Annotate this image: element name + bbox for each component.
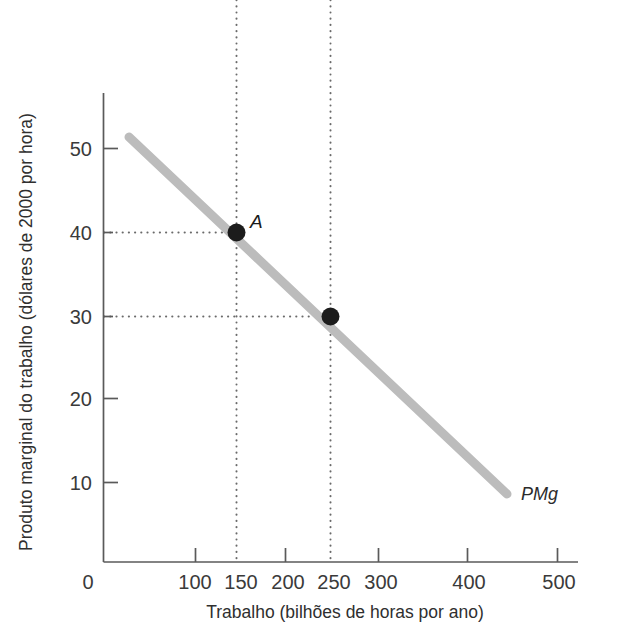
y-axis-title: Produto marginal do trabalho (dólares de… (16, 113, 36, 551)
data-point-a (228, 224, 246, 242)
pmg-curve-label: PMg (521, 484, 558, 504)
x-tick-label-500: 500 (542, 571, 575, 593)
y-tick-label-50: 50 (70, 138, 92, 160)
y-tick-label-20: 20 (70, 388, 92, 410)
marginal-product-line-chart: 50 40 30 20 10 0 100 150 200 250 300 400… (0, 0, 624, 644)
x-tick-label-100: 100 (178, 571, 211, 593)
x-tick-label-250: 250 (317, 571, 350, 593)
data-point-a-label: A (249, 211, 263, 232)
x-axis-title: Trabalho (bilhões de horas por ano) (206, 602, 484, 622)
origin-label-0: 0 (82, 571, 93, 593)
x-tick-label-400: 400 (452, 571, 485, 593)
y-tick-label-10: 10 (70, 472, 92, 494)
y-tick-label-30: 30 (70, 306, 92, 328)
chart-figure: 50 40 30 20 10 0 100 150 200 250 300 400… (0, 0, 624, 644)
pmg-curve (129, 137, 507, 494)
x-tick-label-200: 200 (271, 571, 304, 593)
y-tick-label-40: 40 (70, 222, 92, 244)
data-point-b (322, 308, 340, 326)
x-tick-label-150: 150 (224, 571, 257, 593)
x-tick-label-300: 300 (364, 571, 397, 593)
